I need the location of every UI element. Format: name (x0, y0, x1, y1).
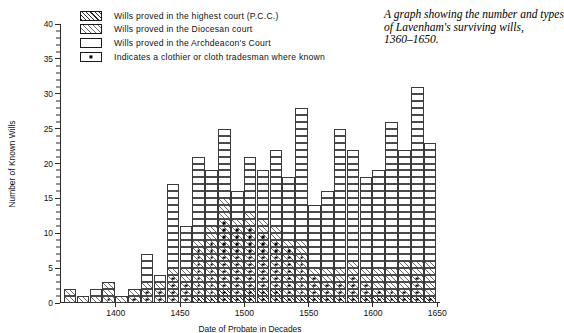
bar-cell (167, 219, 179, 226)
bar-1610 (385, 122, 397, 303)
bar-cell (334, 191, 346, 198)
bar-cell (334, 240, 346, 247)
y-tick-major: 0 (48, 298, 60, 308)
bar-cell (424, 212, 436, 219)
y-tick-mark (56, 261, 60, 262)
y-tick-mark (56, 100, 60, 101)
bar-cell (270, 240, 282, 247)
y-tick-mark (56, 149, 60, 150)
bar-cell (334, 177, 346, 184)
bar-cell (308, 240, 320, 247)
bar-cell (321, 219, 333, 226)
bar-cell (411, 212, 423, 219)
bar-cell (385, 191, 397, 198)
bar-cell (218, 289, 230, 296)
y-tick-label: 0 (48, 298, 53, 308)
y-tick-label: 30 (44, 89, 53, 99)
bar-cell (424, 296, 436, 303)
bar-cell (282, 268, 294, 275)
y-tick-mark (56, 86, 60, 87)
bar-1410 (128, 289, 140, 303)
bar-cell (360, 254, 372, 261)
bar-cell (167, 275, 179, 282)
bar-cell (398, 233, 410, 240)
bar-cell (270, 268, 282, 275)
y-tick-minor (56, 205, 60, 206)
bar-cell (218, 282, 230, 289)
bar-cell (257, 191, 269, 198)
bar-cell (385, 122, 397, 129)
bar-cell (321, 282, 333, 289)
bar-cell (398, 289, 410, 296)
bar-cell (411, 226, 423, 233)
bar-cell (360, 247, 372, 254)
bar-cell (270, 282, 282, 289)
bar-cell (180, 233, 192, 240)
bar-cell (347, 261, 359, 268)
bar-cell (385, 198, 397, 205)
bar-cell (411, 254, 423, 261)
bar-1420 (141, 254, 153, 303)
bar-cell (411, 101, 423, 108)
bar-cell (334, 143, 346, 150)
bar-cell (372, 268, 384, 275)
bar-cell (244, 184, 256, 191)
bar-cell (398, 157, 410, 164)
y-tick-mark (56, 51, 60, 52)
bar-1630 (411, 87, 423, 303)
bar-cell (205, 275, 217, 282)
bar-cell (192, 191, 204, 198)
bar-cell (295, 254, 307, 261)
bar-cell (244, 226, 256, 233)
bar-cell (282, 240, 294, 247)
bar-cell (282, 205, 294, 212)
legend-item-pcc: Wills proved in the highest court (P.C.C… (80, 9, 325, 23)
bar-cell (424, 198, 436, 205)
bar-cell (360, 219, 372, 226)
bar-cell (424, 233, 436, 240)
bar-cell (385, 254, 397, 261)
bar-cell (385, 233, 397, 240)
y-tick-major: 30 (44, 89, 60, 99)
bar-cell (360, 296, 372, 303)
y-tick-minor (56, 30, 60, 31)
bar-cell (321, 261, 333, 268)
bar-cell (244, 170, 256, 177)
bar-cell (347, 219, 359, 226)
y-tick-minor (56, 100, 60, 101)
bar-cell (360, 282, 372, 289)
bar-cell (411, 205, 423, 212)
bar-cell (334, 198, 346, 205)
bar-cell (231, 219, 243, 226)
bar-cell (385, 177, 397, 184)
y-tick-mark (56, 65, 60, 66)
bar-cell (64, 296, 76, 303)
bar-cell (257, 226, 269, 233)
bar-cell (424, 261, 436, 268)
bar-cell (385, 150, 397, 157)
bar-cell (167, 233, 179, 240)
y-tick-minor (56, 282, 60, 283)
y-tick-mark (55, 303, 60, 304)
bar-cell (231, 212, 243, 219)
bar-cell (270, 289, 282, 296)
bar-cell (372, 247, 384, 254)
y-tick-mark (56, 254, 60, 255)
bar-cell (192, 261, 204, 268)
bar-cell (398, 226, 410, 233)
bar-cell (360, 212, 372, 219)
bar-cell (398, 191, 410, 198)
bar-cell (257, 212, 269, 219)
x-tick-1600: 1600 (372, 303, 373, 307)
bar-cell (372, 233, 384, 240)
bar-cell (205, 247, 217, 254)
bar-cell (424, 282, 436, 289)
bar-1500 (244, 157, 256, 303)
x-tick-1500: 1500 (244, 303, 245, 307)
y-tick-major: 40 (44, 19, 60, 29)
bar-cell (218, 247, 230, 254)
bar-cell (257, 219, 269, 226)
bar-cell (347, 240, 359, 247)
bar-1480 (218, 129, 230, 303)
bar-cell (192, 157, 204, 164)
